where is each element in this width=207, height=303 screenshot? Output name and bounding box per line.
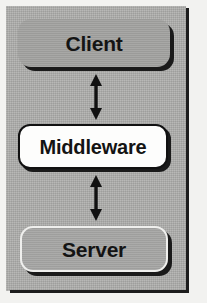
- double-arrow-icon: [88, 175, 104, 221]
- double-arrow-icon: [88, 74, 104, 120]
- node-server: Server: [20, 226, 168, 272]
- diagram-figure: Client Middleware Server © Cengage Learn…: [0, 0, 207, 303]
- copyright-credit: © Cengage Learning: [183, 297, 195, 303]
- node-middleware: Middleware: [18, 124, 168, 169]
- node-middleware-label: Middleware: [40, 137, 147, 157]
- node-client-label: Client: [65, 33, 122, 54]
- connector-client-middleware: [88, 74, 104, 120]
- panel-bottom-rule: [10, 290, 189, 293]
- connector-middleware-server: [88, 175, 104, 221]
- node-client: Client: [18, 19, 170, 67]
- panel-right-rule: [186, 8, 189, 293]
- node-server-label: Server: [62, 239, 126, 260]
